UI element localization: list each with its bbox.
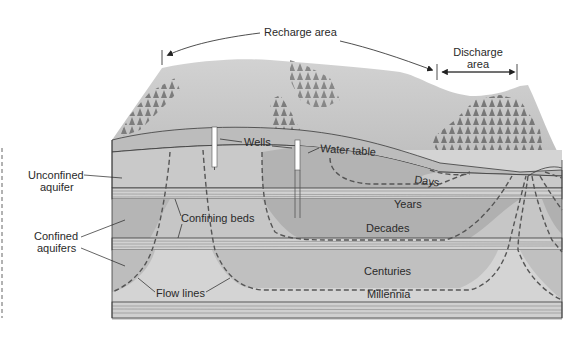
zone-millennia-label: Millennia — [367, 288, 411, 300]
confining-beds-label: Confining beds — [181, 212, 255, 224]
zone-decades-label: Decades — [366, 222, 410, 234]
groundwater-diagram: Recharge area Discharge area Wells Water… — [0, 0, 579, 348]
zone-years-label: Years — [394, 198, 422, 210]
recharge-area-label: Recharge area — [264, 26, 338, 38]
well-deep — [295, 140, 300, 170]
well-shallow — [212, 127, 217, 167]
discharge-area-label-line1: Discharge — [453, 46, 503, 58]
zone-centuries-label: Centuries — [364, 265, 412, 277]
flow-lines-label: Flow lines — [156, 287, 205, 299]
confined-aquifers-label-line2: aquifers — [37, 242, 77, 254]
confined-aquifers-label-line1: Confined — [34, 230, 78, 242]
wells-label: Wells — [244, 136, 271, 148]
unconfined-aquifer-label-line2: aquifer — [40, 181, 74, 193]
discharge-area-label-line2: area — [467, 58, 490, 70]
unconfined-aquifer-label-line1: Unconfined — [28, 169, 84, 181]
